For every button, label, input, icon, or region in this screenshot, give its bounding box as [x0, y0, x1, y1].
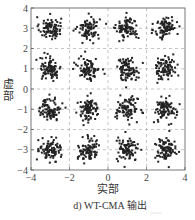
svg-text:−3: −3	[17, 144, 28, 155]
svg-text:0: 0	[106, 172, 111, 183]
svg-text:−1: −1	[17, 104, 28, 115]
svg-text:−2: −2	[17, 124, 28, 135]
svg-text:3: 3	[23, 23, 28, 34]
svg-text:−2: −2	[64, 172, 75, 183]
x-axis-title: 实部	[97, 182, 119, 196]
svg-text:2: 2	[23, 43, 28, 54]
svg-text:部: 部	[3, 89, 14, 103]
svg-text:1: 1	[23, 63, 28, 74]
y-axis-title: 虚部	[3, 78, 14, 103]
scatter-points	[35, 12, 180, 168]
svg-text:2: 2	[144, 172, 149, 183]
figure-caption: d) WT-CMA 输出	[73, 199, 146, 212]
svg-text:0: 0	[23, 84, 28, 95]
svg-text:4: 4	[23, 3, 28, 14]
constellation-chart: −4−2024−4−3−2−101234 实部 d) WT-CMA 输出 虚部	[0, 0, 195, 220]
svg-text:−4: −4	[17, 165, 28, 176]
svg-text:4: 4	[183, 172, 188, 183]
